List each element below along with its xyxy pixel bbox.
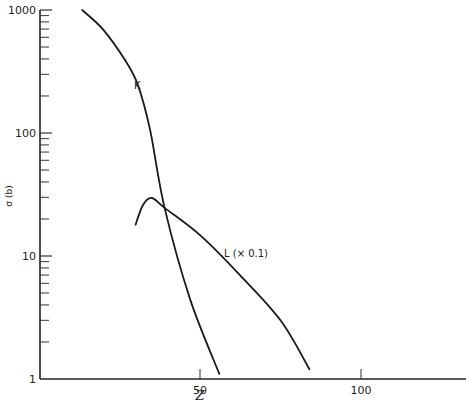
curve-label-k: K [134, 80, 141, 91]
labels: Z σ (b) K L (× 0.1) [4, 80, 268, 403]
y-tick-label: 100 [15, 127, 36, 140]
axes [40, 10, 466, 379]
x-tick-label: 100 [351, 384, 372, 397]
x-axis-title: Z [194, 388, 205, 403]
y-tick-label: 1000 [8, 4, 36, 17]
l-shell-curve [136, 198, 310, 369]
cross-section-chart: 110100100050100 Z σ (b) K L (× 0.1) [0, 0, 466, 405]
k-shell-curve [82, 10, 219, 374]
axis-ticks: 110100100050100 [8, 4, 372, 397]
y-tick-label: 10 [22, 250, 36, 263]
y-axis-title: σ (b) [4, 185, 14, 206]
curve-label-l: L (× 0.1) [224, 248, 268, 259]
y-tick-label: 1 [29, 373, 36, 386]
curves [82, 10, 309, 374]
